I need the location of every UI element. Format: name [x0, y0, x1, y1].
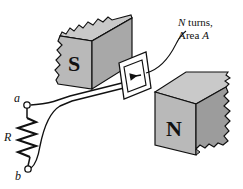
coil-turns-label: N turns, — [177, 16, 213, 28]
resistor-lead-bottom — [28, 157, 30, 166]
north-broken-corner — [196, 149, 200, 155]
physics-diagram: S N turns, Area A — [0, 0, 243, 189]
north-magnet: N — [155, 72, 230, 155]
wire-lower — [31, 87, 128, 168]
coil-annotation: N turns, Area A — [177, 16, 213, 41]
terminal-a-label: a — [14, 91, 20, 105]
area-symbol: A — [201, 29, 209, 41]
terminal-b-node — [25, 166, 31, 172]
north-pole-label: N — [166, 116, 182, 141]
area-word: Area — [178, 29, 202, 41]
resistor-label: R — [3, 130, 12, 144]
terminal-b-label: b — [15, 169, 21, 183]
lead-wires — [31, 82, 128, 168]
terminal-a-node — [24, 102, 30, 108]
coil-area-label: Area A — [178, 29, 209, 41]
south-pole-label: S — [68, 51, 80, 76]
figure-canvas: S N turns, Area A — [0, 0, 243, 189]
resistor-zigzag — [18, 118, 36, 157]
